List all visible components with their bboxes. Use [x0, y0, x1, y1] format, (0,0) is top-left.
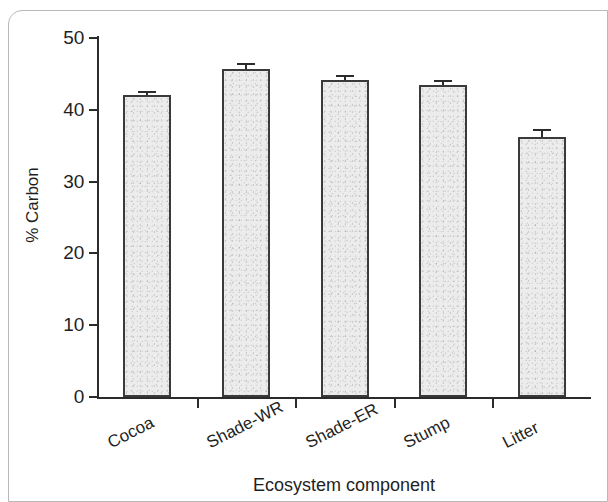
- bar-litter: [518, 137, 566, 397]
- bar-stump: [419, 85, 467, 397]
- bar-cocoa: [123, 95, 171, 397]
- y-tick-label: 40: [40, 100, 84, 119]
- error-bar-cap-1: [138, 91, 156, 93]
- x-tick-label-stump: Stump: [401, 414, 453, 452]
- error-bar-cap-4: [434, 80, 452, 82]
- x-tick-4: [492, 399, 494, 408]
- x-tick-label-cocoa: Cocoa: [105, 414, 157, 452]
- y-tick-0: [89, 396, 98, 398]
- y-tick-label-text: 40: [44, 100, 84, 119]
- bar-fill-texture: [421, 87, 465, 395]
- x-axis-title: Ecosystem component: [97, 476, 591, 495]
- bar-shade-wr: [222, 69, 270, 397]
- y-tick-label: 50: [40, 28, 84, 47]
- x-tick-2: [295, 399, 297, 408]
- y-tick-label-text: 30: [44, 172, 84, 191]
- x-tick-label-litter: Litter: [500, 419, 542, 452]
- y-tick-30: [89, 181, 98, 183]
- bar-fill-texture: [224, 71, 268, 395]
- x-tick-1: [197, 399, 199, 408]
- error-bar-cap-5: [533, 129, 551, 131]
- y-tick-label: 10: [40, 315, 84, 334]
- y-axis-title: % Carbon: [24, 145, 42, 265]
- y-tick-10: [89, 324, 98, 326]
- y-tick-20: [89, 252, 98, 254]
- x-tick-label-shade-wr: Shade-WR: [204, 398, 286, 452]
- error-bar-cap-2: [237, 63, 255, 65]
- y-tick-label-text: 10: [44, 315, 84, 334]
- error-bar-cap-3: [336, 75, 354, 77]
- x-tick-label-shade-er: Shade-ER: [303, 400, 381, 452]
- y-tick-label: 0: [40, 387, 84, 406]
- y-tick-label-text: 0: [44, 387, 84, 406]
- y-tick-label-text: 20: [44, 243, 84, 262]
- bar-shade-er: [321, 80, 369, 397]
- bar-fill-texture: [323, 82, 367, 395]
- y-tick-label-text: 50: [44, 28, 84, 47]
- y-tick-label: 30: [40, 172, 84, 191]
- bar-fill-texture: [520, 139, 564, 395]
- y-axis-line: [97, 36, 99, 399]
- y-tick-50: [89, 37, 98, 39]
- y-tick-label: 20: [40, 243, 84, 262]
- x-tick-3: [394, 399, 396, 408]
- bar-fill-texture: [125, 97, 169, 395]
- y-tick-40: [89, 109, 98, 111]
- x-axis-line: [97, 397, 591, 399]
